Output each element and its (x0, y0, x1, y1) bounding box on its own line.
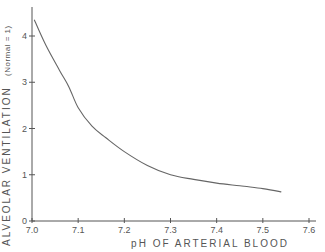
y-tick-label: 1 (22, 170, 27, 180)
x-tick-label: 7.2 (118, 225, 131, 235)
y-tick-label: 2 (22, 124, 27, 134)
y-tick-label: 4 (22, 31, 27, 41)
x-tick-label: 7.5 (257, 225, 270, 235)
x-tick-label: 7.4 (210, 225, 223, 235)
x-axis: 7.07.17.27.37.47.57.6 (26, 218, 316, 235)
x-tick-label: 7.1 (72, 225, 85, 235)
x-tick-label: 7.0 (26, 225, 39, 235)
x-tick-label: 7.3 (164, 225, 177, 235)
y-axis-subtitle: (Normal = 1) (3, 25, 12, 76)
y-axis-title: ALVEOLAR VENTILATION (1, 86, 12, 246)
y-axis: 01234 (22, 7, 35, 226)
y-tick-label: 3 (22, 77, 27, 87)
data-curve (34, 20, 281, 192)
x-tick-label: 7.6 (303, 225, 316, 235)
chart: 01234 7.07.17.27.37.47.57.6 pH OF ARTERI… (0, 0, 325, 252)
x-axis-title: pH OF ARTERIAL BLOOD (131, 238, 289, 249)
